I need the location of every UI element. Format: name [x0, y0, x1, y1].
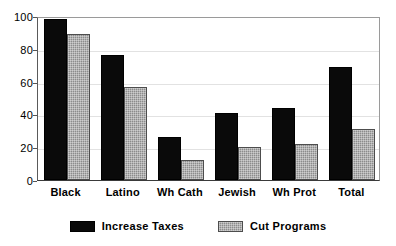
- legend-item[interactable]: Increase Taxes: [70, 220, 184, 232]
- bar-cut-programs: [124, 87, 147, 180]
- x-tick-label: Black: [37, 186, 94, 199]
- y-tick-label: 40: [3, 110, 33, 121]
- y-tick-label: 20: [3, 143, 33, 154]
- x-tick-label: Wh Prot: [266, 186, 323, 199]
- legend-label: Increase Taxes: [102, 220, 184, 232]
- bar-group: [210, 18, 267, 180]
- plot-area: [37, 17, 380, 181]
- bar-group: [38, 18, 95, 180]
- chart-legend: Increase TaxesCut Programs: [0, 216, 396, 236]
- solid-black-swatch: [70, 221, 95, 232]
- x-tick-label: Wh Cath: [151, 186, 208, 199]
- bar-increase-taxes: [44, 19, 67, 180]
- bar-cut-programs: [181, 160, 204, 180]
- bar-cut-programs: [295, 144, 318, 180]
- y-tick-label: 80: [3, 45, 33, 56]
- bar-increase-taxes: [329, 67, 352, 180]
- bar-increase-taxes: [158, 137, 181, 180]
- bar-group: [152, 18, 209, 180]
- bar-increase-taxes: [272, 108, 295, 180]
- y-tick-mark: [33, 115, 37, 116]
- bar-cut-programs: [352, 129, 375, 180]
- x-tick-label: Jewish: [209, 186, 266, 199]
- y-tick-label: 100: [3, 12, 33, 23]
- x-axis: BlackLatinoWh CathJewishWh ProtTotal: [37, 186, 380, 202]
- y-tick-mark: [33, 50, 37, 51]
- bar-group: [267, 18, 324, 180]
- x-tick-label: Total: [323, 186, 380, 199]
- textured-gray-swatch: [218, 221, 243, 232]
- bar-group: [95, 18, 152, 180]
- legend-item[interactable]: Cut Programs: [218, 220, 326, 232]
- y-tick-mark: [33, 181, 37, 182]
- y-axis: 020406080100: [0, 17, 33, 181]
- y-tick-label: 0: [3, 176, 33, 187]
- bar-cut-programs: [67, 34, 90, 180]
- y-tick-mark: [33, 148, 37, 149]
- y-tick-mark: [33, 17, 37, 18]
- bar-increase-taxes: [101, 55, 124, 180]
- bar-group: [324, 18, 381, 180]
- bar-increase-taxes: [215, 113, 238, 180]
- bar-chart: 020406080100 BlackLatinoWh CathJewishWh …: [0, 0, 396, 246]
- legend-label: Cut Programs: [250, 220, 326, 232]
- y-tick-mark: [33, 83, 37, 84]
- y-tick-label: 60: [3, 78, 33, 89]
- bar-cut-programs: [238, 147, 261, 180]
- x-tick-label: Latino: [94, 186, 151, 199]
